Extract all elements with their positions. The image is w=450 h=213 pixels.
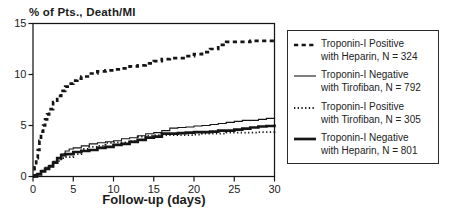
legend-label: Troponin-I Negativewith Tirofiban, N = 7… xyxy=(321,68,421,94)
legend-item: Troponin-I Negativewith Heparin, N = 801 xyxy=(293,131,436,157)
legend-label: Troponin-I Positivewith Tirofiban, N = 3… xyxy=(321,100,421,126)
y-tick-label: 0 xyxy=(20,170,26,182)
legend-label: Troponin-I Negativewith Heparin, N = 801 xyxy=(321,131,417,157)
legend-item: Troponin-I Positivewith Heparin, N = 324 xyxy=(293,37,436,63)
series-line-1 xyxy=(33,117,275,176)
series-line-0 xyxy=(33,41,275,177)
legend-sample-line-bold-solid-icon xyxy=(293,134,317,144)
legend-sample-line-thin-solid-icon xyxy=(293,71,317,81)
legend-label: Troponin-I Positivewith Heparin, N = 324 xyxy=(321,37,417,63)
x-axis-label: Follow-up (days) xyxy=(102,192,205,207)
y-tick-label: 5 xyxy=(20,119,26,131)
legend-sample-line-dotted-icon xyxy=(293,103,317,113)
x-tick-label: 30 xyxy=(268,183,280,195)
y-tick-label: 10 xyxy=(14,68,26,80)
legend-item: Troponin-I Positivewith Tirofiban, N = 3… xyxy=(293,100,436,126)
y-tick-label: 15 xyxy=(14,17,26,29)
x-tick-label: 25 xyxy=(228,183,240,195)
legend-sample-line-bold-dashed-icon xyxy=(293,40,317,50)
legend-item: Troponin-I Negativewith Tirofiban, N = 7… xyxy=(293,68,436,94)
x-tick-label: 0 xyxy=(30,183,36,195)
x-tick-label: 5 xyxy=(70,183,76,195)
chart-figure: % of Pts., Death/MI 051015051015202530 F… xyxy=(0,0,450,213)
legend: Troponin-I Positivewith Heparin, N = 324… xyxy=(287,30,439,164)
